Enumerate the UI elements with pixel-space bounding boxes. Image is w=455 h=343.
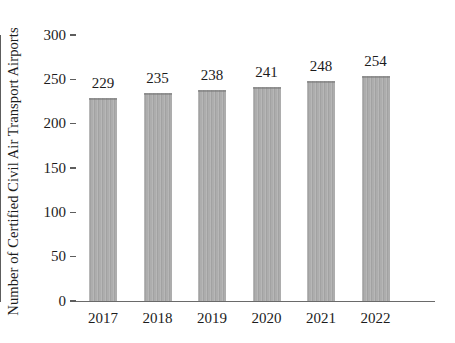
y-axis-tick [70,167,76,168]
bar-top-edge [307,81,335,83]
bar-top-edge [144,93,172,95]
bar-value-label: 254 [346,54,406,69]
x-axis-line [76,301,435,302]
bar [253,87,281,301]
bar [198,90,226,301]
x-axis-tick-label: 2022 [344,311,408,326]
y-axis-tick [70,300,76,301]
bar-value-label: 241 [237,65,297,80]
bar-top-edge [198,90,226,92]
y-axis-tick-label: 150 [0,161,66,176]
y-axis-tick-label: 50 [0,249,66,264]
y-axis-tick [70,256,76,257]
y-axis-tick-label: 100 [0,205,66,220]
y-axis-tick-label: 250 [0,72,66,87]
y-axis-tick [70,34,76,35]
bar-top-edge [89,98,117,100]
bar-value-label: 229 [73,76,133,91]
bar [307,81,335,301]
bar-value-label: 235 [128,71,188,86]
bar-value-label: 238 [182,68,242,83]
y-axis-tick [70,123,76,124]
bar-top-edge [362,76,390,78]
y-axis-tick-label: 200 [0,116,66,131]
bar [89,98,117,301]
y-axis-tick-label: 300 [0,28,66,43]
bar-value-label: 248 [291,59,351,74]
bar [362,76,390,301]
bar [144,93,172,301]
y-axis-tick [70,212,76,213]
bar-top-edge [253,87,281,89]
y-axis-tick-label: 0 [0,294,66,309]
bar-chart: Number of Certified Civil Air Transport … [0,0,455,343]
